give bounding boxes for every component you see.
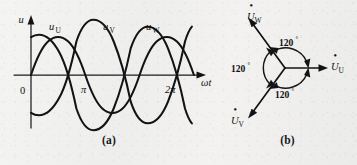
phasor-label-U-V-dot: • <box>234 104 238 115</box>
angle-arc-bottom <box>269 68 310 90</box>
phasor-label-U-V: • U V <box>231 104 244 130</box>
angle-arc-top-arrowhead-end <box>304 59 310 69</box>
angle-label-top-degree: ° <box>296 35 299 42</box>
x-tick-pi: π <box>81 84 87 95</box>
phasor-label-U-W-sub: W <box>254 16 261 25</box>
angle-label-left-degree: ° <box>248 61 251 68</box>
curve-u-V <box>31 20 192 124</box>
phasor-label-U-U: • U U <box>331 50 344 76</box>
y-axis-label-text: u <box>19 14 24 25</box>
phasor-U-V-arrowhead <box>248 109 257 119</box>
angle-label-left: 120 ° <box>231 61 251 74</box>
phasor-label-U-V-sub: V <box>238 120 244 129</box>
phasor-svg: • U U • U W • U V 120 ° <box>218 0 357 132</box>
curve-label-u-W-sub: W <box>153 26 160 35</box>
panel-phasor-diagram: • U U • U W • U V 120 ° <box>218 0 357 165</box>
curve-label-u-U-sub: U <box>56 26 62 35</box>
curve-label-u-V-base: u <box>103 21 108 32</box>
curve-label-u-U: u U <box>49 21 62 35</box>
phasor-label-U-U-dot: • <box>334 50 338 61</box>
curve-label-u-W: u W <box>146 21 160 35</box>
panel-waveform-chart: u ωt 0 π 2π u U u V u <box>0 0 218 165</box>
curve-label-u-W-base: u <box>146 21 151 32</box>
caption-panel-a: (a) <box>0 134 218 146</box>
curve-u-W <box>31 27 192 131</box>
y-axis-label: u <box>19 14 24 25</box>
angle-arc-bottom-arrowhead-end <box>304 68 310 78</box>
y-axis <box>28 15 35 128</box>
curve-label-u-U-base: u <box>49 21 54 32</box>
origin-tick-label: 0 <box>20 85 25 96</box>
x-tick-2pi: 2π <box>165 84 176 95</box>
phasor-label-U-W-dot: • <box>250 0 254 11</box>
caption-panel-b: (b) <box>218 134 357 146</box>
x-axis-label: ωt <box>201 77 212 88</box>
angle-label-bottom: 120 ° <box>275 87 295 100</box>
angle-label-top-value: 120 <box>279 37 294 48</box>
curve-label-u-V-sub: V <box>110 26 116 35</box>
waveform-svg: u ωt 0 π 2π u U u V u <box>0 0 218 132</box>
phasor-vector-U-U <box>285 64 328 71</box>
phasor-U-U-arrowhead <box>319 64 329 71</box>
y-axis-arrowhead <box>28 15 35 25</box>
angle-label-bottom-degree: ° <box>292 87 295 94</box>
phasor-label-U-U-sub: U <box>338 66 344 75</box>
angle-arc-top <box>269 47 310 69</box>
x-axis-label-text: ωt <box>201 77 212 88</box>
phasor-label-U-W: • U W <box>247 0 261 25</box>
angle-arc-left <box>263 48 274 89</box>
figure-root: u ωt 0 π 2π u U u V u <box>0 0 357 165</box>
angle-label-left-value: 120 <box>231 63 246 74</box>
angle-label-bottom-value: 120 <box>275 89 290 100</box>
angle-label-top: 120 ° <box>279 35 299 48</box>
curve-label-u-V: u V <box>103 21 116 35</box>
